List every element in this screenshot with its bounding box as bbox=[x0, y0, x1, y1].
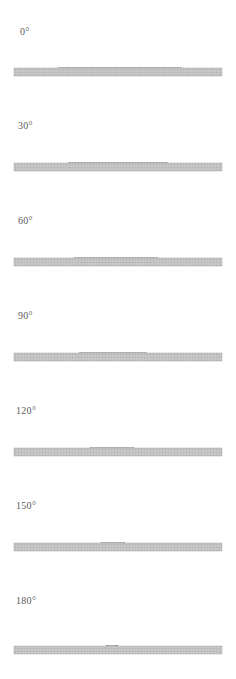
droplet-panel-30: 30° bbox=[0, 95, 236, 190]
droplet-panel-60: 60° bbox=[0, 190, 236, 285]
figure-canvas: 0°30°60°90°120°150°180° bbox=[0, 0, 236, 679]
panel-drawing bbox=[0, 475, 236, 570]
panel-drawing bbox=[0, 190, 236, 285]
panel-drawing bbox=[0, 95, 236, 190]
substrate-strip bbox=[14, 163, 222, 171]
droplet-panel-120: 120° bbox=[0, 380, 236, 475]
panel-drawing bbox=[0, 0, 236, 95]
droplet-panel-0: 0° bbox=[0, 0, 236, 95]
droplet-panel-90: 90° bbox=[0, 285, 236, 380]
substrate-strip bbox=[14, 258, 222, 266]
panel-drawing bbox=[0, 285, 236, 380]
substrate-strip bbox=[14, 543, 222, 551]
substrate-strip bbox=[14, 353, 222, 361]
droplet-panel-180: 180° bbox=[0, 570, 236, 679]
substrate-strip bbox=[14, 68, 222, 76]
substrate-strip bbox=[14, 448, 222, 456]
droplet-panel-150: 150° bbox=[0, 475, 236, 570]
panel-drawing bbox=[0, 570, 236, 679]
substrate-strip bbox=[14, 646, 222, 654]
panel-drawing bbox=[0, 380, 236, 475]
